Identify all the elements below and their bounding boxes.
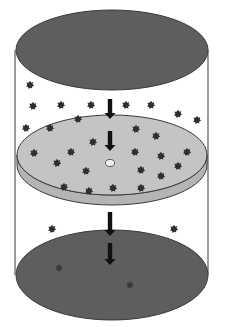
particle bbox=[147, 101, 155, 109]
middle-disc-top bbox=[17, 115, 207, 195]
sedimentation-diagram bbox=[0, 0, 225, 327]
disc-hole bbox=[106, 160, 115, 167]
particle bbox=[87, 101, 95, 109]
diagram-canvas bbox=[0, 0, 225, 327]
top-plate bbox=[16, 10, 208, 90]
particle bbox=[57, 101, 65, 109]
particle bbox=[170, 225, 178, 233]
particle bbox=[122, 101, 130, 109]
particle bbox=[174, 110, 182, 118]
particle bbox=[29, 102, 37, 110]
particle bbox=[48, 225, 56, 233]
particle bbox=[193, 116, 201, 124]
particle bbox=[26, 81, 34, 89]
particle bbox=[22, 124, 30, 132]
